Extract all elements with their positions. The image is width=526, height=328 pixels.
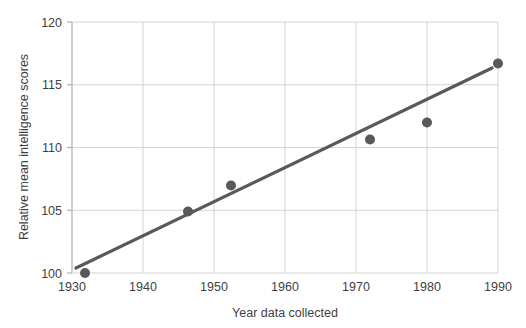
y-tick-label-105: 105 xyxy=(41,204,62,218)
scatter-plot: 120 115 110 105 100 1930 1940 1950 1960 … xyxy=(0,0,526,328)
data-point xyxy=(365,135,375,145)
data-point xyxy=(80,268,90,278)
chart-container: 120 115 110 105 100 1930 1940 1950 1960 … xyxy=(0,0,526,328)
y-tick-label-120: 120 xyxy=(41,16,62,30)
x-tick-label-1940: 1940 xyxy=(129,280,157,294)
x-tick-label-1980: 1980 xyxy=(413,280,441,294)
data-point xyxy=(422,118,432,128)
x-tick-label-1960: 1960 xyxy=(271,280,299,294)
x-tick-label-1950: 1950 xyxy=(200,280,228,294)
y-tick-label-110: 110 xyxy=(42,141,62,155)
data-point xyxy=(183,207,193,217)
y-tick-label-115: 115 xyxy=(42,78,62,92)
data-point xyxy=(493,59,503,69)
data-point xyxy=(226,181,236,191)
chart-background xyxy=(0,0,526,328)
x-tick-label-1990: 1990 xyxy=(484,280,512,294)
x-axis-title: Year data collected xyxy=(232,306,338,320)
x-tick-label-1930: 1930 xyxy=(58,280,86,294)
y-axis-title: Relative mean intelligence scores xyxy=(17,54,31,240)
y-tick-label-100: 100 xyxy=(41,267,62,281)
x-tick-label-1970: 1970 xyxy=(342,280,370,294)
